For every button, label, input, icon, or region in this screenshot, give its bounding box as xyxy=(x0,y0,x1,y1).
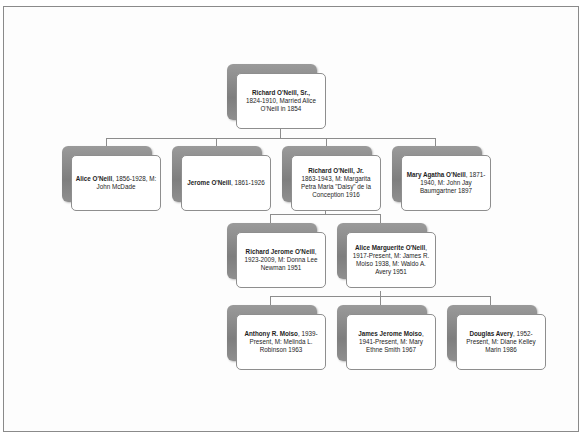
connector-to-child-3 xyxy=(326,138,327,146)
connector-to-gc-2 xyxy=(380,214,381,223)
connector-to-child-1 xyxy=(106,138,107,146)
node-name: Douglas Avery xyxy=(469,330,513,337)
node-child-jerome[interactable]: Jerome O'Neill, 1861-1926 xyxy=(181,155,271,211)
node-child-alice[interactable]: Alice O'Neill, 1856-1928, M: John McDade xyxy=(71,155,161,211)
node-name: Mary Agatha O'Neill xyxy=(407,171,466,178)
node-details: , 1861-1926 xyxy=(231,179,265,186)
node-name: Alice O'Neill xyxy=(76,175,113,182)
node-card: James Jerome Moiso, 1941-Present, M: Mar… xyxy=(346,314,436,370)
connector-to-ggc-2 xyxy=(380,296,381,305)
node-card: Anthony R. Moiso, 1939-Present, M: Melin… xyxy=(236,314,326,370)
node-name: Richard O'Neill, Sr., xyxy=(252,89,310,96)
node-ggc-james-jerome[interactable]: James Jerome Moiso, 1941-Present, M: Mar… xyxy=(346,314,436,370)
node-card: Alice Marguerite O'Neill, 1917-Present, … xyxy=(346,232,436,288)
connector-to-ggc-3 xyxy=(490,296,491,305)
node-card: Mary Agatha O'Neill, 1871-1940, M: John … xyxy=(401,155,491,211)
node-card: Richard O'Neill, Jr.1863-1943, M: Margar… xyxy=(291,155,381,211)
connector-to-child-2 xyxy=(216,138,217,146)
node-name: Anthony R. Moiso xyxy=(244,330,298,337)
node-card: Jerome O'Neill, 1861-1926 xyxy=(181,155,271,211)
connector-level3-bus xyxy=(270,214,380,215)
connector-root-down xyxy=(280,129,281,138)
node-gc-alice-marguerite[interactable]: Alice Marguerite O'Neill, 1917-Present, … xyxy=(346,232,436,288)
connector-to-child-4 xyxy=(435,138,436,146)
node-child-mary-agatha[interactable]: Mary Agatha O'Neill, 1871-1940, M: John … xyxy=(401,155,491,211)
node-name: Alice Marguerite O'Neill xyxy=(355,244,425,251)
node-gc-richard-jerome[interactable]: Richard Jerome O'Neill, 1923-2009, M: Do… xyxy=(236,232,326,288)
node-card: Alice O'Neill, 1856-1928, M: John McDade xyxy=(71,155,161,211)
node-card: Douglas Avery, 1952-Present, M: Diane Ke… xyxy=(456,314,546,370)
node-name: Jerome O'Neill xyxy=(187,179,231,186)
node-ggc-anthony[interactable]: Anthony R. Moiso, 1939-Present, M: Melin… xyxy=(236,314,326,370)
connector-to-ggc-1 xyxy=(270,296,271,305)
connector-to-gc-1 xyxy=(270,214,271,223)
node-child-richard-jr[interactable]: Richard O'Neill, Jr.1863-1943, M: Margar… xyxy=(291,155,381,211)
node-details: 1863-1943, M: Margarita Petra Maria "Dai… xyxy=(301,175,371,198)
node-name: Richard Jerome O'Neill xyxy=(246,248,315,255)
node-name: James Jerome Moiso xyxy=(358,330,422,337)
connector-level2-bus xyxy=(106,138,435,139)
node-card: Richard O'Neill, Sr.,1824-1910, Married … xyxy=(236,73,326,129)
node-ggc-douglas[interactable]: Douglas Avery, 1952-Present, M: Diane Ke… xyxy=(456,314,546,370)
node-name: Richard O'Neill, Jr. xyxy=(308,167,364,174)
node-card: Richard Jerome O'Neill, 1923-2009, M: Do… xyxy=(236,232,326,288)
node-details: 1824-1910, Married Alice O'Neill in 1854 xyxy=(246,97,316,112)
node-root[interactable]: Richard O'Neill, Sr.,1824-1910, Married … xyxy=(236,73,326,129)
